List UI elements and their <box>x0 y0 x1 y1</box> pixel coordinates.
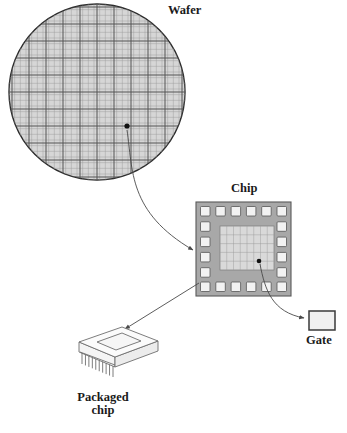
chip-bond-pad <box>231 282 241 292</box>
chip-bond-pad <box>246 207 256 217</box>
chip-bond-pad <box>231 207 241 217</box>
chip-bond-pad <box>201 207 211 217</box>
chip-bond-pad <box>277 268 287 278</box>
packaged-chip-label-line1: Packaged <box>77 390 128 404</box>
chip-bond-pad <box>262 207 272 217</box>
chip-bond-pad <box>216 282 226 292</box>
chip-bond-pad <box>277 252 287 262</box>
wafer-label: Wafer <box>168 4 201 17</box>
wafer-group <box>0 0 202 197</box>
chip-gate-marker-dot <box>257 259 262 264</box>
chip-bond-pad <box>246 282 256 292</box>
figure-canvas: Wafer Chip Gate Packaged chip <box>0 0 347 433</box>
gate-box <box>309 311 335 330</box>
chip-bond-pad <box>201 222 211 232</box>
chip-group <box>196 202 291 296</box>
chip-bond-pad <box>201 252 211 262</box>
chip-bond-pad <box>277 237 287 247</box>
arrow-chip-to-packaged-chip <box>125 283 199 329</box>
chip-bond-pad <box>277 282 287 292</box>
chip-bond-pad <box>201 282 211 292</box>
packaged-chip-group <box>79 327 158 377</box>
packaged-chip-label-line2: chip <box>92 403 115 417</box>
chip-bond-pad <box>201 268 211 278</box>
gate-label: Gate <box>306 334 332 347</box>
wafer-die-marker-dot <box>124 123 129 128</box>
chip-bond-pad <box>277 207 287 217</box>
chip-bond-pad <box>216 207 226 217</box>
packaged-chip-label: Packaged chip <box>63 391 143 417</box>
chip-bond-pad <box>277 222 287 232</box>
figure-svg <box>0 0 347 433</box>
chip-label: Chip <box>231 182 257 195</box>
chip-bond-pad <box>201 237 211 247</box>
